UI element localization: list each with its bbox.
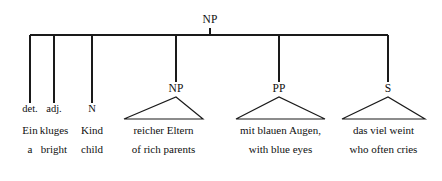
- constituent-triangle-4: [236, 97, 325, 119]
- node-label-s-5: S: [385, 83, 392, 95]
- constituent-triangle-5: [342, 97, 425, 119]
- gloss-word-4: with blue eyes: [249, 144, 313, 155]
- gloss-word-1: bright: [41, 144, 67, 155]
- source-word-2: Kind: [81, 125, 103, 136]
- gloss-word-3: of rich parents: [132, 144, 196, 155]
- pos-label-2: N: [88, 104, 96, 115]
- gloss-word-5: who often cries: [350, 144, 418, 155]
- root-node-label-np: NP: [202, 14, 217, 26]
- source-word-0: Ein: [22, 125, 37, 136]
- node-label-pp-4: PP: [272, 83, 285, 95]
- pos-label-1: adj.: [46, 104, 61, 115]
- source-word-4: mit blauen Augen,: [240, 125, 321, 136]
- pos-label-0: det.: [22, 104, 37, 115]
- syntax-tree-diagram: NPdet.Einaadj.klugesbrightNKindchildNPre…: [0, 0, 442, 181]
- node-label-np-3: NP: [168, 83, 183, 95]
- gloss-word-2: child: [81, 144, 103, 155]
- constituent-triangle-3: [124, 97, 203, 119]
- source-word-1: kluges: [40, 125, 69, 136]
- gloss-word-0: a: [28, 144, 33, 155]
- source-word-5: das viel weint: [353, 125, 414, 136]
- source-word-3: reicher Eltern: [133, 125, 193, 136]
